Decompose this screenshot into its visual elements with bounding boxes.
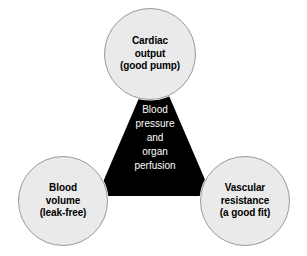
node-label-line: (a good fit) [220,207,270,218]
node-label-line: Blood [49,182,77,193]
node-label-line: (leak-free) [40,207,87,218]
node-vascular-resistance: Vascular resistance (a good fit) [200,156,290,246]
node-blood-volume-label: Blood volume (leak-free) [40,182,87,220]
node-label-line: Cardiac [132,35,168,46]
node-cardiac-output-label: Cardiac output (good pump) [120,35,180,73]
node-label-line: (good pump) [120,60,180,71]
node-blood-volume: Blood volume (leak-free) [18,156,108,246]
node-label-line: resistance [221,195,269,206]
node-label-line: Vascular [225,182,265,193]
node-label-line: output [135,48,166,59]
blood-pressure-triad-diagram: Blood pressure and organ perfusion Cardi… [0,0,307,256]
node-label-line: volume [46,195,80,206]
node-cardiac-output: Cardiac output (good pump) [104,8,196,100]
node-vascular-resistance-label: Vascular resistance (a good fit) [220,182,270,220]
